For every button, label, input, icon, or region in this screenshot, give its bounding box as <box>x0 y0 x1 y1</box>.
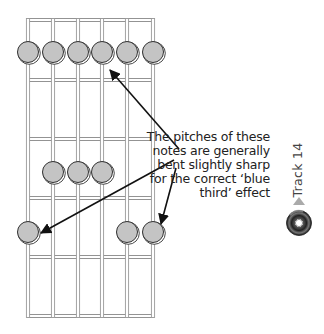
caption-line: notes are generally <box>100 144 270 158</box>
fret-line <box>28 315 153 318</box>
bent-note-dot <box>143 222 166 245</box>
bent-note-dot <box>92 42 115 65</box>
note-dot <box>18 42 41 65</box>
note-dot <box>43 42 66 65</box>
triangle-up-icon <box>293 197 305 205</box>
caption-line: third’ effect <box>100 186 270 200</box>
bent-notes-caption: The pitches of these notes are generally… <box>100 130 270 200</box>
track-label: Track 14 <box>290 143 305 198</box>
nut <box>28 19 153 22</box>
note-dot <box>117 222 140 245</box>
note-dot <box>68 42 91 65</box>
note-dot <box>68 162 91 185</box>
bent-note-dot <box>18 222 41 245</box>
caption-line: bent slightly sharp <box>100 158 270 172</box>
cd-icon <box>287 211 312 236</box>
fret-line <box>28 79 153 82</box>
caption-line: for the correct ‘blue <box>100 172 270 186</box>
caption-line: The pitches of these <box>100 130 270 144</box>
track-icons <box>287 197 312 236</box>
note-dot <box>143 42 166 65</box>
note-dot <box>117 42 140 65</box>
note-dot <box>43 162 66 185</box>
fret-line <box>28 256 153 259</box>
